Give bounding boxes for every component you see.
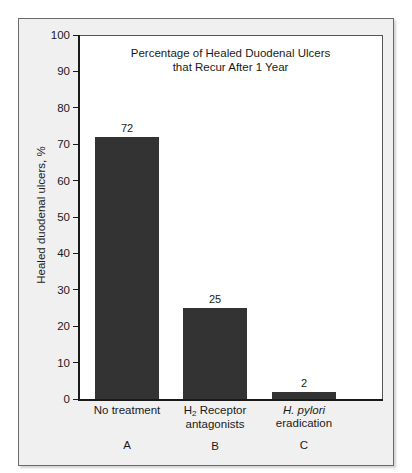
y-axis-tick: 100: [51, 29, 79, 41]
bar-group: 25: [183, 308, 247, 399]
y-axis-tick: 20: [57, 320, 79, 332]
category-line-1: H2 Receptor: [184, 404, 247, 416]
y-axis-tick-label: 60: [57, 175, 73, 187]
x-axis-labels: No treatmentAH2 ReceptorantagonistsBH. p…: [79, 404, 382, 464]
figure-frame: Percentage of Healed Duodenal Ulcers tha…: [18, 18, 394, 466]
bar: [95, 137, 159, 399]
category-key: C: [250, 439, 358, 452]
x-axis-line: [78, 399, 383, 401]
y-axis-tick-label: 100: [51, 29, 73, 41]
category-name: No treatment: [94, 404, 160, 416]
bar-value-label: 72: [95, 122, 159, 134]
y-axis-tick-label: 40: [57, 247, 73, 259]
bar-group: 72: [95, 137, 159, 399]
bar: [183, 308, 247, 399]
bar-group: 2: [272, 392, 336, 399]
category-line-1: H. pylori: [283, 404, 325, 416]
y-axis-tick: 50: [57, 211, 79, 223]
bar-value-label: 25: [183, 293, 247, 305]
category-name: H: [184, 404, 192, 416]
bar-value-label: 2: [272, 377, 336, 389]
category-line-2: eradication: [250, 417, 358, 430]
category-name: H. pylori: [283, 404, 325, 416]
bars-layer: 72252: [79, 35, 382, 399]
y-axis-ticks: 1009080706050403020100: [19, 19, 79, 419]
y-axis-tick-label: 30: [57, 284, 73, 296]
y-axis-tick-label: 80: [57, 102, 73, 114]
y-axis-tick-label: 10: [57, 357, 73, 369]
y-axis-tick-label: 90: [57, 65, 73, 77]
x-axis-category-label: H. pylorieradicationC: [250, 404, 358, 452]
y-axis-tick: 70: [57, 138, 79, 150]
category-line-1: No treatment: [94, 404, 160, 416]
y-axis-tick: 40: [57, 247, 79, 259]
y-axis-tick-label: 50: [57, 211, 73, 223]
y-axis-title: Healed duodenal ulcers, %: [35, 115, 47, 315]
bar: [272, 392, 336, 399]
y-axis-tick: 60: [57, 175, 79, 187]
y-axis-tick-label: 0: [64, 393, 73, 405]
y-axis-tick: 10: [57, 357, 79, 369]
category-subscript: 2: [192, 409, 196, 418]
y-axis-tick: 30: [57, 284, 79, 296]
y-axis-tick: 90: [57, 65, 79, 77]
y-axis-tick-label: 70: [57, 138, 73, 150]
category-name-suffix: Receptor: [196, 404, 246, 416]
y-axis-tick: 80: [57, 102, 79, 114]
y-axis-tick-label: 20: [57, 320, 73, 332]
